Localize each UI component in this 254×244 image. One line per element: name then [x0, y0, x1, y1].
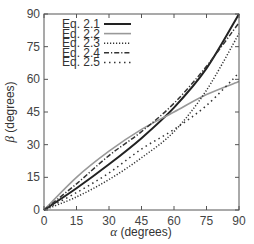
y-tick-label: 15 — [27, 170, 41, 184]
y-axis-title: β (degrees) — [2, 81, 17, 143]
x-axis-title: α (degrees) — [110, 224, 172, 239]
x-tick-label: 75 — [200, 214, 214, 228]
legend-label: Eq. 2.5 — [62, 55, 100, 69]
y-tick-label: 75 — [27, 40, 41, 54]
y-tick-label: 30 — [27, 138, 41, 152]
x-tick-label: 0 — [41, 214, 48, 228]
y-tick-label: 60 — [27, 72, 41, 86]
legend: Eq. 2.1Eq. 2.2Eq. 2.3Eq. 2.4Eq. 2.5 — [62, 17, 131, 69]
y-tick-label: 90 — [27, 7, 41, 21]
x-tick-label: 90 — [232, 214, 246, 228]
y-tick-label: 0 — [33, 203, 40, 217]
y-tick-label: 45 — [27, 105, 41, 119]
x-tick-label: 15 — [70, 214, 84, 228]
line-chart: 01530456075900153045607590 Eq. 2.1Eq. 2.… — [0, 0, 254, 244]
